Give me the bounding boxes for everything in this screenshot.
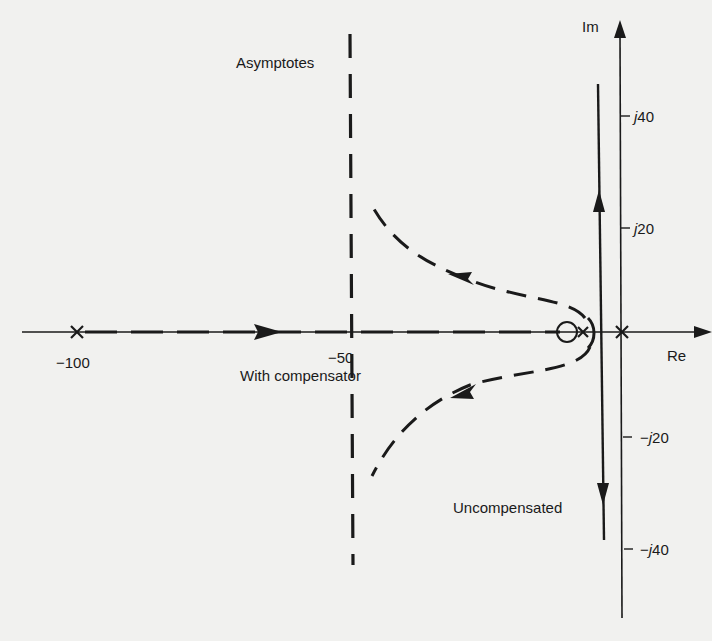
compensated-upper-branch bbox=[370, 202, 585, 318]
imag-axis-label: Im bbox=[582, 19, 599, 34]
root-locus-diagram: Asymptotes Im Re −100 −50 With compensat… bbox=[0, 0, 712, 641]
with-compensator-label: With compensator bbox=[240, 368, 361, 383]
upper-branch-arrow-icon bbox=[448, 272, 474, 285]
uncompensated-branch bbox=[598, 84, 604, 540]
imaginary-axis bbox=[614, 20, 633, 618]
compensated-lower-branch bbox=[372, 347, 590, 476]
compensated-branch-arrow-icon bbox=[254, 324, 282, 340]
real-axis-label: Re bbox=[667, 348, 686, 363]
tick-minus-j40: −j40 bbox=[640, 542, 669, 557]
uncompensated-down-arrow-icon bbox=[597, 483, 609, 505]
uncompensated-up-arrow-icon bbox=[593, 190, 605, 212]
tick-j40: j40 bbox=[634, 109, 654, 124]
tick-minus-100: −100 bbox=[56, 355, 90, 370]
real-axis-arrow-icon bbox=[694, 326, 712, 338]
uncompensated-label: Uncompensated bbox=[453, 500, 562, 515]
asymptote-line bbox=[350, 34, 353, 565]
tick-j20: j20 bbox=[634, 221, 654, 236]
root-locus-plot bbox=[0, 0, 712, 641]
tick-minus-50: −50 bbox=[328, 350, 353, 365]
imag-axis-arrow-icon bbox=[614, 20, 626, 38]
tick-minus-j20: −j20 bbox=[640, 430, 669, 445]
asymptotes-label: Asymptotes bbox=[236, 55, 314, 70]
